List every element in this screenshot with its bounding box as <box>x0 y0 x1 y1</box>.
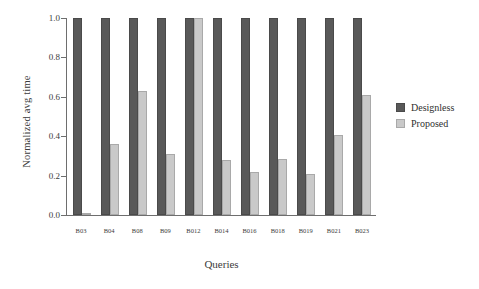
bar-proposed-B09 <box>166 154 175 215</box>
x-tick-label: B09 <box>160 227 171 234</box>
x-tick-label: B014 <box>214 227 228 234</box>
y-tick-label: 0.2 <box>34 171 60 181</box>
bar-group <box>353 18 371 215</box>
y-tick-mark <box>61 97 66 98</box>
y-tick-mark <box>61 176 66 177</box>
legend-swatch-icon <box>396 119 405 128</box>
x-tick-label: B021 <box>327 227 341 234</box>
bar-designless-B018 <box>269 18 278 215</box>
bar-proposed-B03 <box>82 213 91 215</box>
y-tick-mark <box>61 215 66 216</box>
bar-proposed-B014 <box>222 160 231 215</box>
chart-legend: DesignlessProposed <box>396 100 478 132</box>
bar-group <box>297 18 315 215</box>
y-axis-title: Normalized avg time <box>21 52 32 192</box>
bar-proposed-B04 <box>110 144 119 215</box>
plot-area <box>67 18 376 215</box>
bar-designless-B04 <box>101 18 110 215</box>
legend-item: Proposed <box>396 116 478 130</box>
bar-designless-B014 <box>213 18 222 215</box>
bar-proposed-B018 <box>278 159 287 215</box>
bar-designless-B08 <box>129 18 138 215</box>
bar-group <box>185 18 203 215</box>
x-axis-tick-labels: B03B04B08B09B012B014B016B018B019B021B023 <box>67 227 376 239</box>
y-tick-label: 0.0 <box>34 210 60 220</box>
bar-group <box>101 18 119 215</box>
y-tick-label: 0.4 <box>34 131 60 141</box>
bar-proposed-B016 <box>250 172 259 215</box>
x-tick-label: B016 <box>243 227 257 234</box>
x-tick-label: B012 <box>186 227 200 234</box>
bar-proposed-B012 <box>194 18 203 215</box>
bar-designless-B019 <box>297 18 306 215</box>
x-tick-label: B019 <box>299 227 313 234</box>
y-tick-mark <box>61 136 66 137</box>
x-tick-label: B018 <box>271 227 285 234</box>
legend-label: Proposed <box>411 118 448 129</box>
legend-label: Designless <box>411 102 454 113</box>
bar-group <box>269 18 287 215</box>
bar-group <box>325 18 343 215</box>
bar-designless-B021 <box>325 18 334 215</box>
bar-chart-figure: Normalized avg time 0.00.20.40.60.81.0 B… <box>0 0 479 289</box>
bar-group <box>241 18 259 215</box>
y-axis-tick-labels: 0.00.20.40.60.81.0 <box>34 0 60 289</box>
bar-designless-B09 <box>157 18 166 215</box>
bar-designless-B016 <box>241 18 250 215</box>
x-tick-label: B08 <box>132 227 143 234</box>
y-tick-label: 0.6 <box>34 92 60 102</box>
y-tick-label: 1.0 <box>34 13 60 23</box>
legend-item: Designless <box>396 100 478 114</box>
legend-swatch-icon <box>396 103 405 112</box>
bar-group <box>157 18 175 215</box>
bar-designless-B03 <box>73 18 82 215</box>
bar-group <box>129 18 147 215</box>
x-tick-label: B03 <box>76 227 87 234</box>
x-tick-label: B023 <box>355 227 369 234</box>
y-tick-mark <box>61 57 66 58</box>
bar-group <box>213 18 231 215</box>
bar-group <box>73 18 91 215</box>
y-tick-mark <box>61 18 66 19</box>
bar-designless-B012 <box>185 18 194 215</box>
bar-proposed-B021 <box>334 135 343 215</box>
x-axis-title: Queries <box>67 258 376 270</box>
bar-proposed-B023 <box>362 95 371 215</box>
bar-proposed-B08 <box>138 91 147 215</box>
bar-proposed-B019 <box>306 174 315 215</box>
x-tick-label: B04 <box>104 227 115 234</box>
x-axis-spine <box>66 215 376 216</box>
bar-designless-B023 <box>353 18 362 215</box>
y-tick-label: 0.8 <box>34 52 60 62</box>
